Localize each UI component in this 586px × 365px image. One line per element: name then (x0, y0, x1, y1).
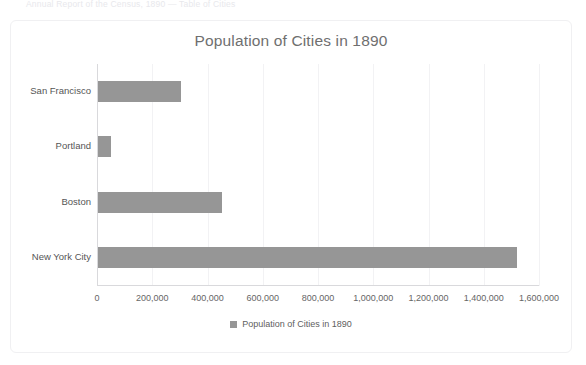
chart-container[interactable]: Population of Cities in 1890 San Francis… (10, 20, 572, 353)
y-axis-tick-label: New York City (13, 251, 91, 262)
x-axis-tick-label: 1,600,000 (519, 293, 559, 303)
bar[interactable] (98, 136, 111, 157)
x-axis-tick-label: 800,000 (302, 293, 335, 303)
x-axis-tick-label: 400,000 (191, 293, 224, 303)
bar[interactable] (98, 247, 517, 268)
x-axis-tick-label: 1,000,000 (353, 293, 393, 303)
x-axis-tick-label: 1,200,000 (408, 293, 448, 303)
legend-label: Population of Cities in 1890 (242, 319, 352, 329)
x-axis-tick-label: 600,000 (246, 293, 279, 303)
bar-rect (98, 136, 111, 157)
chart-title: Population of Cities in 1890 (11, 32, 571, 50)
legend-square-marker-icon (230, 321, 237, 328)
bar[interactable] (98, 81, 181, 102)
bar-rect (98, 247, 517, 268)
y-axis-tick-label: Portland (13, 140, 91, 151)
x-axis-tick-label: 200,000 (136, 293, 169, 303)
y-axis-tick-label: Boston (13, 196, 91, 207)
y-axis-tick-label: San Francisco (13, 85, 91, 96)
x-axis-line (97, 285, 539, 286)
x-axis-tick-label: 0 (94, 293, 99, 303)
chart-legend[interactable]: Population of Cities in 1890 (11, 319, 571, 329)
x-axis-tick-label: 1,400,000 (464, 293, 504, 303)
bar[interactable] (98, 192, 222, 213)
bar-rect (98, 81, 181, 102)
page-top-caption: Annual Report of the Census, 1890 — Tabl… (26, 0, 235, 9)
gridline (539, 64, 540, 286)
plot-area (97, 64, 539, 286)
bar-rect (98, 192, 222, 213)
